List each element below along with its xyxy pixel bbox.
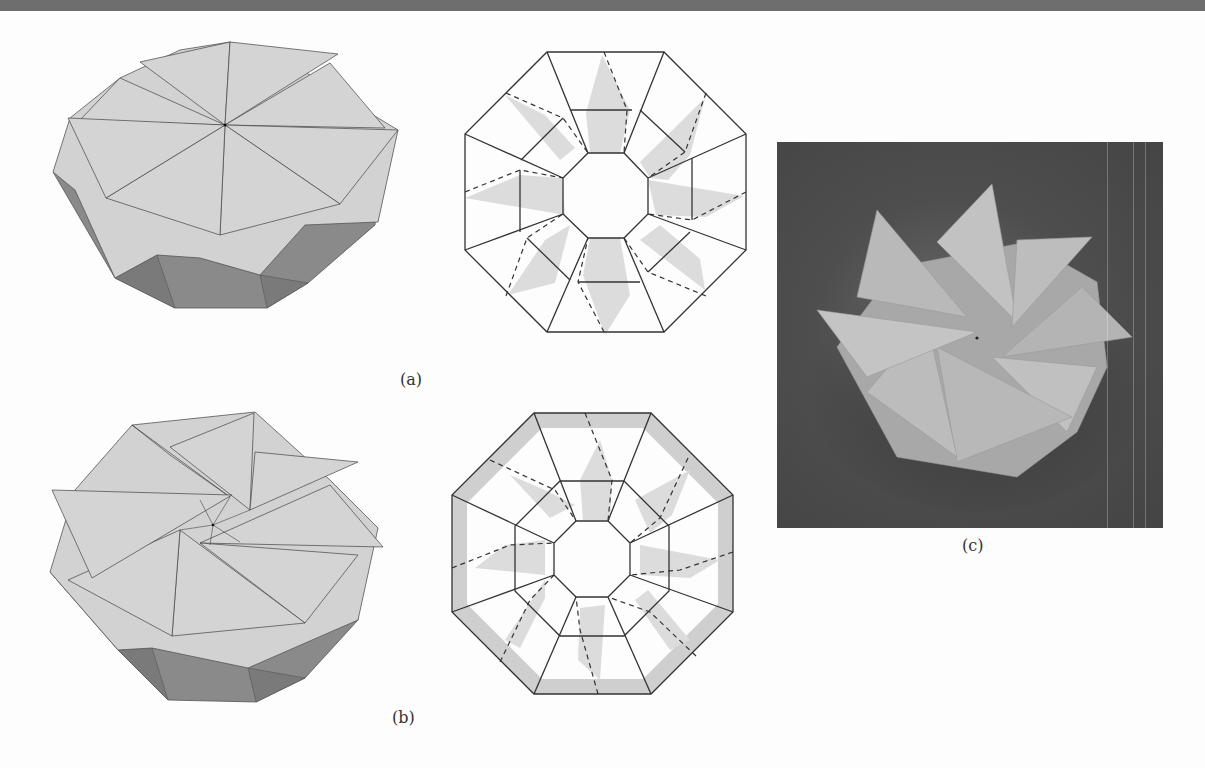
figure-b-label: (b) xyxy=(392,708,415,727)
figure-b-3d-render xyxy=(40,400,400,710)
figure-c-photo xyxy=(777,142,1163,528)
figure-b-crease-pattern xyxy=(446,409,746,709)
page-header-bar xyxy=(0,0,1205,11)
figure-a-label: (a) xyxy=(400,370,422,389)
figure-c-label: (c) xyxy=(962,536,983,555)
figure-a-3d-render xyxy=(40,18,420,328)
folded-model-photo xyxy=(777,142,1163,528)
figure-a-crease-pattern xyxy=(458,48,758,348)
